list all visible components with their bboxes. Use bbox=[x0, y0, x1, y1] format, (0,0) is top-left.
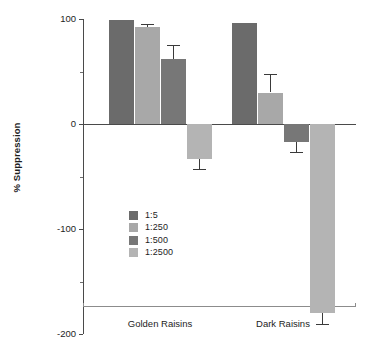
chart-legend: 1:5 1:250 1:500 1:2500 bbox=[129, 209, 173, 259]
error-bar-cap bbox=[290, 152, 303, 153]
error-bar-cap bbox=[167, 45, 180, 46]
y-axis-line bbox=[83, 19, 84, 334]
legend-swatch-1-5 bbox=[129, 211, 138, 220]
bar bbox=[258, 93, 283, 125]
y-axis-tick-label-wrap: 100 bbox=[36, 19, 82, 20]
legend-item: 1:500 bbox=[129, 234, 173, 247]
y-axis-tick-label-wrap: -100 bbox=[36, 229, 82, 230]
legend-label: 1:250 bbox=[145, 223, 168, 232]
error-bar-stem bbox=[173, 45, 174, 59]
legend-swatch-1-500 bbox=[129, 236, 138, 245]
x-axis-end-tick bbox=[83, 303, 84, 307]
y-axis-minor-tick bbox=[80, 282, 83, 283]
y-axis-tick-label: 0 bbox=[71, 119, 76, 129]
y-axis-minor-tick bbox=[80, 72, 83, 73]
bar bbox=[284, 124, 309, 142]
bar bbox=[310, 124, 335, 313]
y-axis-tick-label-wrap: 0 bbox=[36, 124, 82, 125]
y-axis-label: % Suppression bbox=[11, 98, 22, 218]
bar bbox=[109, 20, 134, 124]
x-axis-tick-label: Dark Raisins bbox=[223, 318, 343, 329]
legend-item: 1:2500 bbox=[129, 247, 173, 260]
legend-item: 1:250 bbox=[129, 222, 173, 235]
legend-swatch-1-250 bbox=[129, 223, 138, 232]
legend-swatch-1-2500 bbox=[129, 248, 138, 257]
y-axis-tick-label: -200 bbox=[57, 329, 76, 339]
error-bar-cap bbox=[193, 169, 206, 170]
x-axis-end-tick bbox=[355, 303, 356, 307]
error-bar-stem bbox=[296, 142, 297, 153]
bar bbox=[232, 23, 257, 124]
legend-label: 1:5 bbox=[145, 211, 158, 220]
error-bar-stem bbox=[270, 74, 271, 93]
y-axis-minor-tick bbox=[80, 177, 83, 178]
x-axis-tick-label: Golden Raisins bbox=[100, 318, 220, 329]
bar-chart: % Suppression 1000-100-200 1:5 1:250 1:5… bbox=[0, 0, 390, 354]
error-bar-stem bbox=[199, 159, 200, 170]
error-bar-cap bbox=[141, 24, 154, 25]
bar bbox=[187, 124, 212, 159]
y-axis-tick-label: 100 bbox=[60, 14, 76, 24]
legend-label: 1:500 bbox=[145, 236, 168, 245]
y-axis-tick-label-wrap: -200 bbox=[36, 334, 82, 335]
error-bar-cap bbox=[264, 74, 277, 75]
y-axis-tick-label: -100 bbox=[57, 224, 76, 234]
bar bbox=[135, 27, 160, 124]
legend-item: 1:5 bbox=[129, 209, 173, 222]
bar bbox=[161, 59, 186, 124]
legend-label: 1:2500 bbox=[145, 248, 173, 257]
